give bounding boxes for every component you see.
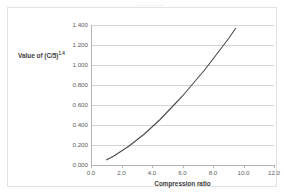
x-axis-tick-mark <box>274 165 275 168</box>
y-axis-tick-label: 0.400 <box>58 122 88 128</box>
x-axis-tick-mark <box>183 165 184 168</box>
x-axis-tick-label: 6.0 <box>171 169 195 176</box>
clipped-header-text: ··········· <box>8 2 284 9</box>
y-axis-tick-label: 0.800 <box>58 82 88 88</box>
y-axis-tick-label: 0.000 <box>58 162 88 168</box>
y-axis-tick-label: 0.200 <box>58 142 88 148</box>
data-series-curve <box>91 25 274 166</box>
x-axis-tick-label: 10.0 <box>232 169 256 176</box>
chart-container: ··········· Value of (C/5)1.4 0.0000.200… <box>7 7 277 187</box>
y-axis-tick-label: 1.400 <box>58 22 88 28</box>
y-axis-tick-label: 1.000 <box>58 62 88 68</box>
plot-area <box>91 25 274 165</box>
x-axis-tick-label: 0.0 <box>79 169 103 176</box>
x-axis-tick-mark <box>91 165 92 168</box>
y-axis-tick-label: 0.600 <box>58 102 88 108</box>
y-axis-tick-label: 1.200 <box>58 42 88 48</box>
x-axis-tick-label: 4.0 <box>140 169 164 176</box>
x-axis-tick-labels: 0.02.04.06.08.010.012.0 <box>91 169 274 179</box>
x-axis-tick-mark <box>152 165 153 168</box>
x-axis-tick-mark <box>122 165 123 168</box>
x-axis-title: Compression ratio <box>91 180 274 187</box>
y-axis-tick-labels: 0.0000.2000.4000.6000.8001.0001.2001.400 <box>56 25 88 165</box>
x-axis-tick-mark <box>244 165 245 168</box>
y-axis-title-text: Value of (C/5) <box>18 52 58 59</box>
x-axis-tick-label: 8.0 <box>201 169 225 176</box>
x-axis-tick-label: 2.0 <box>110 169 134 176</box>
x-axis-tick-mark <box>213 165 214 168</box>
x-axis-tick-label: 12.0 <box>262 169 284 176</box>
